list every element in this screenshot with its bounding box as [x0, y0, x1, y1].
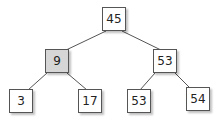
node-value: 45 — [106, 12, 121, 26]
node-53-leaf: 53 — [127, 89, 151, 113]
node-53-right: 53 — [153, 49, 177, 73]
node-value: 53 — [157, 54, 172, 68]
node-value: 53 — [131, 94, 146, 108]
edge-53-53 — [140, 73, 155, 90]
node-value: 17 — [82, 94, 97, 108]
node-54: 54 — [186, 87, 210, 111]
binary-tree-diagram: 45 9 53 3 17 53 54 — [0, 0, 219, 124]
edge-45-9 — [64, 31, 106, 51]
node-value: 54 — [190, 92, 205, 106]
node-value: 3 — [17, 94, 25, 108]
node-17: 17 — [78, 89, 102, 113]
edge-9-17 — [67, 73, 87, 90]
node-value: 9 — [53, 54, 61, 68]
edge-9-3 — [28, 73, 47, 90]
edge-53-54 — [175, 73, 190, 88]
node-45-root: 45 — [102, 7, 126, 31]
node-9-highlighted: 9 — [45, 49, 69, 73]
node-3: 3 — [9, 89, 33, 113]
edge-45-53 — [122, 31, 163, 51]
